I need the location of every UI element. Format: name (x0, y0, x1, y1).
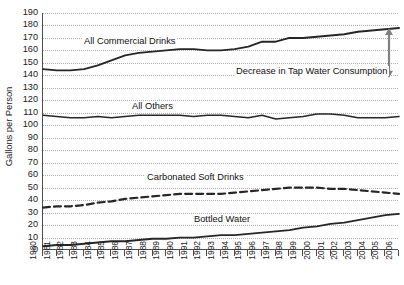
y-axis-tick-label: 50 (28, 183, 38, 192)
chart-figure: Gallons per Person 190180170160150140130… (0, 0, 404, 285)
series-line-all-commercial-drinks (43, 28, 399, 70)
y-axis-tick-label: 100 (23, 120, 38, 129)
series-label-carbonated-soft-drinks: Carbonated Soft Drinks (145, 172, 246, 182)
y-axis-tick-label: 80 (28, 145, 38, 154)
y-axis-tick-label: 120 (23, 95, 38, 104)
y-axis-tick-label: 170 (23, 33, 38, 42)
y-axis-tick-label: 140 (23, 70, 38, 79)
y-axis-tick-label: 150 (23, 58, 38, 67)
y-axis-tick-label: 90 (28, 133, 38, 142)
y-axis-tick-label: 40 (28, 195, 38, 204)
x-axis-tick-label: 2006 (393, 257, 403, 266)
y-axis-tick-label: 160 (23, 45, 38, 54)
y-axis-tick-label: 30 (28, 208, 38, 217)
series-label-all-commercial-drinks: All Commercial Drinks (82, 36, 177, 46)
y-axis-tick-label: 20 (28, 220, 38, 229)
series-line-carbonated-soft-drinks (43, 188, 399, 208)
y-axis-tick-label: 130 (23, 83, 38, 92)
series-label-bottled-water: Bottled Water (192, 214, 252, 224)
y-axis-tick-labels: 1901801701601501401301201101009080706050… (16, 0, 40, 258)
annotation-tap-water-decrease: Decrease in Tap Water Consumption (234, 66, 389, 76)
y-axis-tick-label: 180 (23, 20, 38, 29)
y-axis-tick-label: 110 (23, 108, 38, 117)
x-axis-tick-labels: 1980198119821983198419851986198719881989… (42, 257, 402, 285)
series-label-all-others: All Others (130, 101, 175, 111)
x-axis-tick (398, 250, 399, 256)
y-axis-tick-label: 190 (23, 8, 38, 17)
series-line-all-others (43, 114, 399, 119)
y-axis-tick-label: 60 (28, 170, 38, 179)
y-axis-tick-label: 70 (28, 158, 38, 167)
y-axis-title-text: Gallons per Person (4, 86, 15, 166)
